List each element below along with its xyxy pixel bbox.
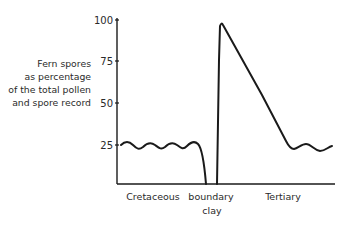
x-label-clay: clay bbox=[202, 205, 222, 216]
y-axis-label-line-1: Fern spores bbox=[37, 58, 91, 69]
y-axis-label-line-3: of the total pollen bbox=[8, 84, 91, 95]
x-category-labels: Cretaceous boundary clay Tertiary bbox=[126, 191, 301, 216]
x-label-boundary: boundary bbox=[188, 191, 234, 202]
y-tick-labels: 100 75 50 25 bbox=[94, 15, 113, 151]
y-tick-label-100: 100 bbox=[94, 15, 113, 26]
fern-spike-chart: Fern spores as percentage of the total p… bbox=[0, 0, 342, 225]
y-axis-label-line-2: as percentage bbox=[25, 71, 92, 82]
y-tick-label-50: 50 bbox=[100, 98, 113, 109]
series-line-tertiary bbox=[217, 24, 332, 184]
y-axis-label: Fern spores as percentage of the total p… bbox=[8, 58, 91, 108]
series-line-cretaceous bbox=[121, 142, 206, 184]
y-tick-label-75: 75 bbox=[100, 56, 113, 67]
x-label-tertiary: Tertiary bbox=[264, 191, 301, 202]
y-tick-label-25: 25 bbox=[100, 140, 113, 151]
x-label-cretaceous: Cretaceous bbox=[126, 191, 180, 202]
y-axis-label-line-4: and spore record bbox=[12, 97, 91, 108]
